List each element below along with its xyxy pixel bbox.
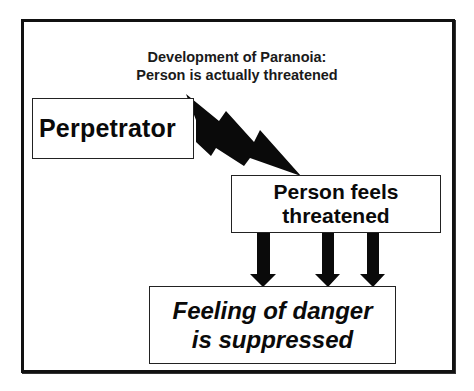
node-perpetrator: Perpetrator (32, 98, 194, 159)
down-arrow-icon (360, 233, 385, 287)
node-person-feels-threatened: Person feels threatened (231, 175, 441, 233)
node-label: Perpetrator (39, 114, 176, 143)
down-arrow-icon (250, 233, 276, 287)
node-label-line-2: is suppressed (172, 325, 372, 354)
node-label-line-1: Person feels (274, 180, 399, 204)
down-arrows (250, 233, 385, 287)
node-label-line-2: threatened (274, 204, 399, 228)
node-label-line-1: Feeling of danger (172, 296, 372, 325)
node-danger-suppressed: Feeling of danger is suppressed (149, 286, 396, 364)
down-arrow-icon (315, 233, 340, 287)
lightning-bolt-icon (186, 94, 301, 176)
